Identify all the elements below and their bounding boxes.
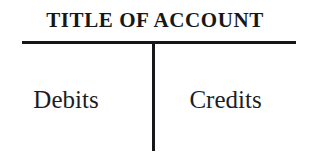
t-account-diagram: TITLE OF ACCOUNT Debits Credits bbox=[0, 0, 312, 157]
debit-column-label: Debits bbox=[0, 85, 142, 115]
credit-column-label: Credits bbox=[147, 85, 304, 115]
account-title: TITLE OF ACCOUNT bbox=[0, 8, 311, 32]
t-account-horizontal-rule bbox=[22, 41, 296, 44]
